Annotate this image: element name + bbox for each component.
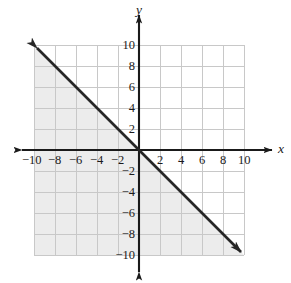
x-tick-label-6: 6: [199, 154, 205, 167]
y-tick-label--8: −8: [111, 228, 135, 241]
graph-figure: y x −10 −8 −6 −4 −2 2 4 6 8 10 10 8 6 4 …: [0, 0, 291, 283]
y-tick-label-4: 4: [114, 102, 135, 115]
y-tick-label-6: 6: [114, 81, 135, 94]
y-tick-label--6: −6: [111, 207, 135, 220]
y-tick-label-2: 2: [114, 123, 135, 136]
coordinate-plane: [0, 0, 291, 283]
x-tick-label-8: 8: [220, 154, 226, 167]
x-tick-label--10: −10: [22, 154, 42, 167]
y-tick-label--4: −4: [111, 186, 135, 199]
x-tick-label-10: 10: [238, 154, 251, 167]
y-tick-label-10: 10: [114, 39, 135, 52]
x-axis-label: x: [278, 142, 284, 156]
y-axis-label: y: [136, 3, 142, 17]
x-tick-label-4: 4: [178, 154, 184, 167]
x-tick-label--8: −8: [48, 154, 61, 167]
y-tick-label-8: 8: [114, 60, 135, 73]
x-tick-label--6: −6: [69, 154, 82, 167]
x-tick-label-2: 2: [157, 154, 163, 167]
x-tick-label--4: −4: [90, 154, 103, 167]
y-tick-label--10: −10: [104, 249, 135, 262]
y-tick-label--2: −2: [111, 165, 135, 178]
